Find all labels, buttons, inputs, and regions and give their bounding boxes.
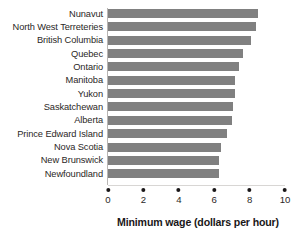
category-label: Quebec — [0, 49, 103, 59]
category-label: Yukon — [0, 89, 103, 99]
bar-row — [108, 62, 239, 71]
bar-row — [108, 102, 233, 111]
bar-row — [108, 169, 219, 178]
category-label: Ontario — [0, 62, 103, 72]
x-tick-label: 8 — [247, 195, 252, 205]
bar — [108, 62, 239, 71]
tick-dot-icon — [177, 188, 181, 192]
x-tick: 4 — [176, 188, 181, 205]
x-tick: 10 — [280, 188, 291, 205]
bar-chart: NunavutNorth West TerreteriesBritish Col… — [0, 0, 291, 235]
bar-row — [108, 143, 221, 152]
category-label: British Columbia — [0, 35, 103, 45]
category-label: Newfoundland — [0, 169, 103, 179]
tick-dot-icon — [283, 188, 287, 192]
category-label: North West Terreteries — [0, 22, 103, 32]
category-label: Saskatchewan — [0, 102, 103, 112]
category-label: Nova Scotia — [0, 142, 103, 152]
bar — [108, 22, 256, 31]
category-label: Manitoba — [0, 75, 103, 85]
bar — [108, 76, 235, 85]
x-tick: 2 — [141, 188, 146, 205]
tick-dot-icon — [212, 188, 216, 192]
category-label: Alberta — [0, 115, 103, 125]
x-axis-ticks: 0246810 — [108, 188, 285, 214]
category-label: Prince Edward Island — [0, 129, 103, 139]
x-tick: 6 — [212, 188, 217, 205]
tick-dot-icon — [106, 188, 110, 192]
x-tick-label: 2 — [141, 195, 146, 205]
bar-row — [108, 76, 235, 85]
x-tick: 0 — [105, 188, 110, 205]
x-tick: 8 — [247, 188, 252, 205]
bar — [108, 116, 232, 125]
bar — [108, 102, 233, 111]
bar — [108, 156, 219, 165]
bar-row — [108, 156, 219, 165]
bar — [108, 143, 221, 152]
x-axis-title: Minimum wage (dollars per hour) — [108, 216, 288, 228]
tick-dot-icon — [141, 188, 145, 192]
bar-row — [108, 36, 251, 45]
x-tick-label: 6 — [212, 195, 217, 205]
bar — [108, 36, 251, 45]
bar — [108, 89, 235, 98]
x-tick-label: 4 — [176, 195, 181, 205]
bar-row — [108, 129, 227, 138]
tick-dot-icon — [248, 188, 252, 192]
bar — [108, 129, 227, 138]
x-tick-label: 0 — [105, 195, 110, 205]
bar — [108, 169, 219, 178]
category-label: New Brunswick — [0, 155, 103, 165]
bar-row — [108, 22, 256, 31]
bar-row — [108, 49, 243, 58]
bar-series — [108, 8, 285, 185]
bar — [108, 49, 243, 58]
bar — [108, 9, 258, 18]
x-axis-line — [108, 185, 285, 186]
bar-row — [108, 89, 235, 98]
bar-row — [108, 116, 232, 125]
y-axis-category-labels: NunavutNorth West TerreteriesBritish Col… — [0, 8, 103, 185]
category-label: Nunavut — [0, 9, 103, 19]
bar-row — [108, 9, 258, 18]
x-tick-label: 10 — [280, 195, 291, 205]
plot-area — [108, 8, 285, 185]
